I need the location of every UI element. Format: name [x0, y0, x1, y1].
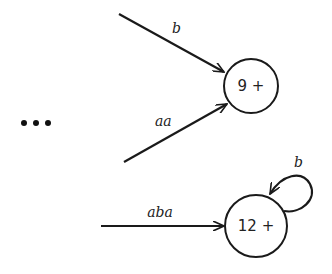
- state-9-label: 9 +: [238, 77, 265, 95]
- ellipsis-dots: [21, 120, 51, 126]
- edge-label-aa: aa: [155, 113, 172, 129]
- edge-label-aba: aba: [147, 204, 173, 220]
- edge-label-b: b: [172, 20, 181, 36]
- state-12-label: 12 +: [238, 217, 274, 235]
- state-9: 9 +: [224, 59, 278, 113]
- edge-b-to-9: b: [119, 14, 224, 72]
- automaton-diagram: b aa 9 + b aba 12 +: [0, 0, 332, 274]
- edge-aa-to-9: aa: [124, 104, 227, 162]
- loop-label-b: b: [294, 154, 303, 170]
- edge-aba-to-12: aba: [101, 204, 224, 226]
- state-12: 12 +: [225, 195, 287, 257]
